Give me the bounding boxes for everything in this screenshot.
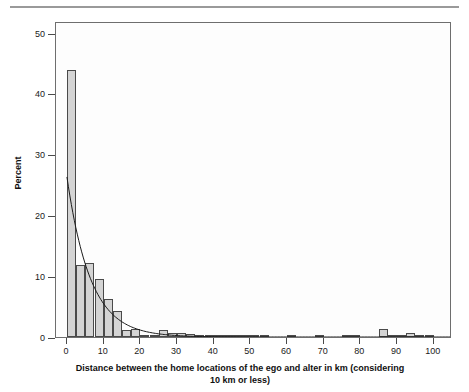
y-tick-label-20: 20 [0,212,45,221]
y-tick-0 [48,338,55,339]
y-tick-label-10: 10 [0,273,45,282]
x-tick-label-40: 40 [193,346,233,356]
plot-area [55,22,451,338]
y-tick-50 [48,34,55,35]
y-tick-20 [48,216,55,217]
x-tick-label-0: 0 [46,346,86,356]
y-tick-30 [48,155,55,156]
x-tick-30 [176,338,177,344]
x-tick-label-70: 70 [303,346,343,356]
x-axis-title: Distance between the home locations of t… [40,362,440,386]
x-tick-label-90: 90 [376,346,416,356]
x-axis-title-line1: Distance between the home locations of t… [76,363,405,373]
x-tick-70 [323,338,324,344]
plot-inner [56,23,450,337]
x-tick-label-50: 50 [229,346,269,356]
x-tick-0 [66,338,67,344]
y-tick-label-40: 40 [0,90,45,99]
x-tick-90 [396,338,397,344]
x-tick-40 [213,338,214,344]
y-tick-40 [48,94,55,95]
x-tick-100 [433,338,434,344]
x-tick-80 [359,338,360,344]
x-tick-60 [286,338,287,344]
x-tick-label-30: 30 [156,346,196,356]
x-tick-label-10: 10 [83,346,123,356]
y-tick-label-50: 50 [0,30,45,39]
x-tick-label-80: 80 [339,346,379,356]
x-tick-label-60: 60 [266,346,306,356]
y-tick-label-0: 0 [0,334,45,343]
x-tick-50 [249,338,250,344]
x-axis-title-line2: 10 km or less) [210,375,270,385]
y-axis-title: Percent [13,143,23,203]
x-tick-label-20: 20 [119,346,159,356]
fit-curve-path [67,177,450,337]
x-tick-20 [139,338,140,344]
y-tick-10 [48,277,55,278]
fit-curve [56,23,450,337]
x-tick-label-100: 100 [413,346,453,356]
histogram-figure: 50 40 30 20 10 0 Percent 010203040506070… [0,0,469,392]
x-tick-10 [103,338,104,344]
